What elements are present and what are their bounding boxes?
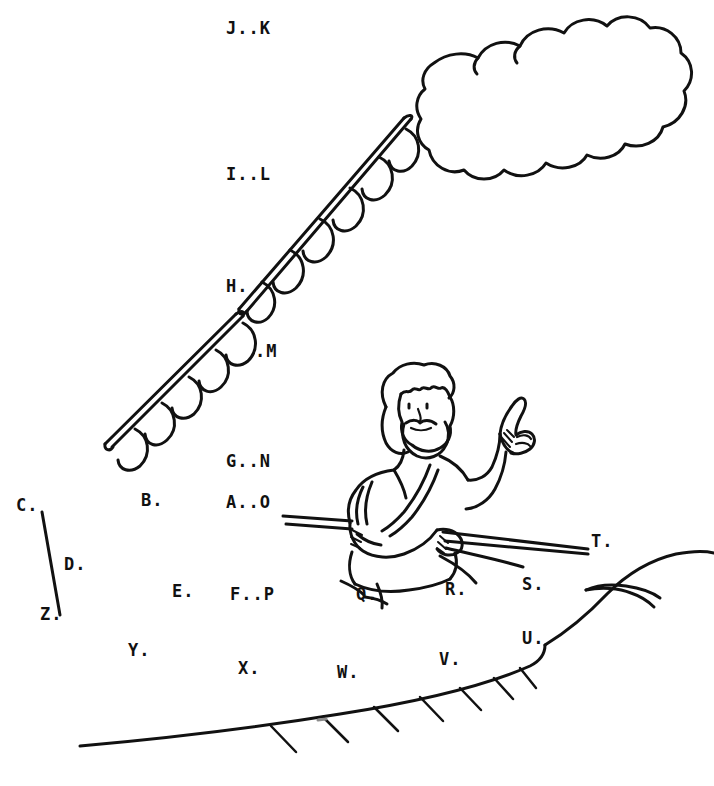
dot-label-t: T.: [591, 533, 613, 550]
dot-label-gn: G..N: [226, 453, 271, 470]
ground-pebble: [318, 719, 326, 720]
dot-label-x: X.: [238, 660, 260, 677]
dot-label-fp: F..P: [230, 586, 275, 603]
dot-label-c: C.: [16, 497, 38, 514]
dot-label-d: D.: [64, 556, 86, 573]
dot-label-u: U.: [522, 630, 544, 647]
dot-label-il: I..L: [226, 166, 271, 183]
dot-label-e: E.: [172, 583, 194, 600]
dot-label-q: Q.: [356, 586, 378, 603]
dot-label-b: B.: [141, 492, 163, 509]
dot-label-z: Z.: [40, 606, 62, 623]
dot-label-y: Y.: [128, 642, 150, 659]
dot-label-h: H.: [226, 278, 248, 295]
dot-label-ao: A..O: [226, 494, 271, 511]
dot-label-w: W.: [337, 664, 359, 681]
dot-label-m: .M: [255, 343, 277, 360]
dot-label-v: V.: [439, 651, 461, 668]
dot-label-r: R.: [445, 581, 467, 598]
coloring-page-canvas: J..K I..L H. .M G..N B. A..O C. D. E. F.…: [0, 0, 714, 786]
dot-label-s: S.: [522, 576, 544, 593]
dot-label-jk: J..K: [226, 20, 271, 37]
